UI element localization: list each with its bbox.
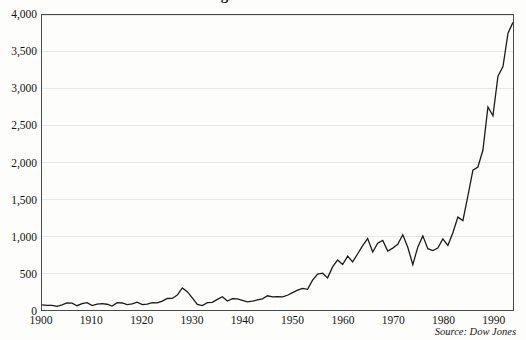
x-tick-label: 1940 xyxy=(231,314,254,326)
chart-title-cropped: Dow Jones Industrial Average xyxy=(0,0,526,11)
y-axis-labels: 05001,0001,5002,0002,5003,0003,5004,000 xyxy=(0,0,37,340)
series-line-dow-jones xyxy=(42,15,513,310)
x-tick-label: 1970 xyxy=(382,314,405,326)
y-tick-label: 4,000 xyxy=(11,8,37,20)
source-note: Source: Dow Jones xyxy=(435,326,516,337)
x-tick-label: 1930 xyxy=(180,314,203,326)
page-title: Dow Jones Industrial Average xyxy=(38,0,235,4)
x-tick-label: 1960 xyxy=(331,314,354,326)
x-tick-label: 1920 xyxy=(130,314,153,326)
y-tick-label: 3,500 xyxy=(11,45,37,57)
plot-area xyxy=(41,14,514,311)
y-tick-label: 1,500 xyxy=(11,194,37,206)
x-tick-label: 1990 xyxy=(482,314,505,326)
y-tick-label: 2,500 xyxy=(11,119,37,131)
dow-jones-chart-figure: Dow Jones Industrial Average 05001,0001,… xyxy=(0,0,526,340)
x-tick-label: 1950 xyxy=(281,314,304,326)
x-tick-label: 1910 xyxy=(80,314,103,326)
x-tick-label: 1980 xyxy=(432,314,455,326)
y-tick-label: 1,000 xyxy=(11,231,37,243)
x-tick-label: 1900 xyxy=(30,314,53,326)
y-tick-label: 500 xyxy=(20,268,37,280)
y-tick-label: 3,000 xyxy=(11,82,37,94)
y-tick-label: 2,000 xyxy=(11,157,37,169)
